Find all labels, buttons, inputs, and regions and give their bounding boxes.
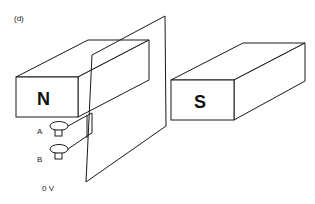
south-pole-label: S [194, 92, 206, 112]
voltage-label: 0 V [42, 184, 55, 193]
induction-diagram: (d) N A B 0 V [0, 0, 315, 204]
panel-label: (d) [14, 14, 24, 23]
south-magnet [171, 43, 305, 120]
north-pole-label: N [37, 89, 50, 109]
terminal-b [50, 145, 68, 160]
terminal-a-label: A [37, 127, 43, 136]
north-magnet [16, 40, 149, 117]
terminal-b-label: B [37, 155, 42, 164]
terminal-a [50, 122, 68, 137]
